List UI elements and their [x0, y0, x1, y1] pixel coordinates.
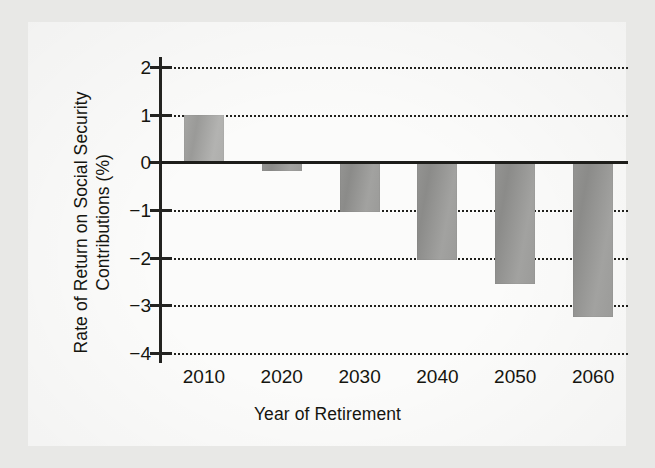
x-tick-label: 2040	[416, 367, 458, 386]
x-axis-title: Year of Retirement	[0, 404, 655, 425]
y-tick	[150, 352, 172, 355]
y-tick-label: 0	[140, 153, 151, 172]
y-tick	[150, 209, 172, 212]
zero-reference-line	[161, 161, 628, 164]
x-tick-label: 2050	[494, 367, 536, 386]
bar	[184, 115, 224, 163]
plot-area: 210−1−2−3−4201020202030204020502060	[161, 67, 628, 353]
x-tick-label: 2010	[183, 367, 225, 386]
figure-canvas: Rate of Return on Social Security Contri…	[0, 0, 655, 468]
y-tick-label: −2	[129, 248, 151, 267]
y-tick	[150, 66, 172, 69]
y-tick-label: −1	[129, 201, 151, 220]
gridline	[161, 115, 628, 117]
gridline	[161, 67, 628, 69]
bar	[417, 162, 457, 260]
x-tick-label: 2030	[338, 367, 380, 386]
y-tick	[150, 257, 172, 260]
gridline	[161, 210, 628, 212]
y-tick-label: −3	[129, 296, 151, 315]
y-tick-label: 2	[140, 58, 151, 77]
y-tick-label: −4	[129, 344, 151, 363]
bar	[573, 162, 613, 317]
x-tick-label: 2060	[572, 367, 614, 386]
gridline	[161, 305, 628, 307]
bar	[495, 162, 535, 284]
x-tick-label: 2020	[261, 367, 303, 386]
bar	[340, 162, 380, 212]
y-tick-label: 1	[140, 105, 151, 124]
y-tick	[150, 114, 172, 117]
y-axis-title: Rate of Return on Social Security Contri…	[70, 57, 115, 387]
gridline	[161, 258, 628, 260]
gridline	[161, 353, 628, 355]
y-tick	[150, 304, 172, 307]
